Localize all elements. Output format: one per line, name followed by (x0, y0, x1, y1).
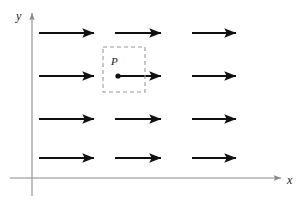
point-p-dot (115, 73, 120, 78)
x-axis-label: x (287, 174, 292, 186)
point-p-label: P (111, 56, 118, 67)
dashed-region-rect (103, 47, 145, 92)
figure-canvas (0, 0, 304, 202)
vector-arrows-group (39, 33, 236, 158)
vector-field-figure: y x P (0, 0, 304, 202)
y-axis-label: y (16, 10, 21, 22)
axes-group (10, 13, 281, 196)
